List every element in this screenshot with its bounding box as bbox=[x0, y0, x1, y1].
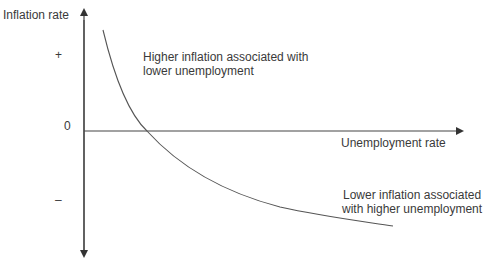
y-tick-zero: 0 bbox=[64, 119, 71, 133]
annotation-lower-line2: with higher unemployment bbox=[342, 202, 482, 216]
annotation-lower: Lower inflation associated with higher u… bbox=[342, 188, 482, 216]
annotation-lower-line1: Lower inflation associated bbox=[342, 188, 482, 202]
y-axis-label: Inflation rate bbox=[3, 8, 69, 22]
x-axis-label: Unemployment rate bbox=[341, 136, 446, 150]
phillips-curve-diagram: Inflation rate + 0 – Unemployment rate H… bbox=[0, 0, 484, 261]
annotation-upper-line1: Higher inflation associated with bbox=[143, 50, 308, 64]
annotation-upper-line2: lower unemployment bbox=[143, 64, 308, 78]
y-tick-plus: + bbox=[55, 48, 62, 62]
annotation-upper: Higher inflation associated with lower u… bbox=[143, 50, 308, 78]
y-tick-minus: – bbox=[55, 193, 62, 207]
diagram-canvas bbox=[0, 0, 484, 261]
